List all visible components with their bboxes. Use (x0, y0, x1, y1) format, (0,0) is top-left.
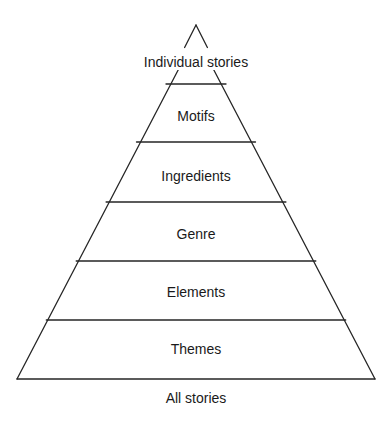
pyramid-left-edge (17, 66, 181, 380)
pyramid-right-edge (212, 66, 376, 380)
pyramid-outline (0, 0, 392, 422)
apex-left-edge-upper (185, 25, 196, 48)
apex-right-edge-upper (196, 25, 207, 48)
pyramid-diagram: Individual stories Motifs Ingredients Ge… (0, 0, 392, 422)
